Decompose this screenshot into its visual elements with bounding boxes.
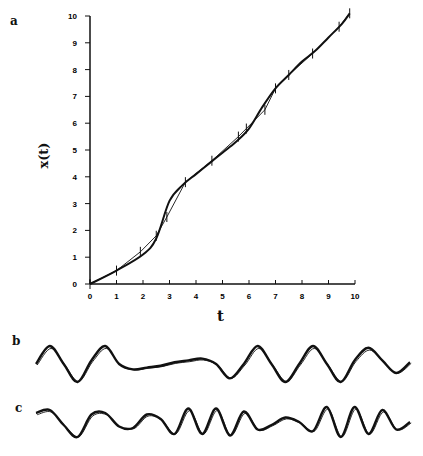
y-tick-label: 1 xyxy=(73,253,78,262)
y-tick-label: 7 xyxy=(73,92,78,101)
series-line xyxy=(90,13,350,284)
x-tick-label: 3 xyxy=(167,292,172,301)
y-tick-label: 6 xyxy=(73,119,78,128)
y-tick-label: 10 xyxy=(68,12,77,21)
x-tick-label: 9 xyxy=(326,292,331,301)
waveform-b-overlay xyxy=(37,348,411,381)
y-tick-label: 9 xyxy=(73,39,78,48)
y-tick-label: 5 xyxy=(73,146,78,155)
y-tick-label: 0 xyxy=(73,280,78,289)
y-tick-label: 8 xyxy=(73,66,78,75)
x-tick-label: 0 xyxy=(88,292,93,301)
chart-svg: 012345678910012345678910 xyxy=(0,0,423,456)
y-tick-label: 4 xyxy=(73,173,78,182)
x-tick-label: 1 xyxy=(114,292,119,301)
y-tick-label: 3 xyxy=(73,200,78,209)
x-tick-label: 2 xyxy=(141,292,146,301)
x-tick-label: 5 xyxy=(220,292,225,301)
x-tick-label: 7 xyxy=(273,292,278,301)
x-tick-label: 8 xyxy=(300,292,305,301)
x-tick-label: 6 xyxy=(247,292,252,301)
x-tick-label: 4 xyxy=(194,292,199,301)
x-tick-label: 10 xyxy=(351,292,360,301)
y-tick-label: 2 xyxy=(73,226,78,235)
